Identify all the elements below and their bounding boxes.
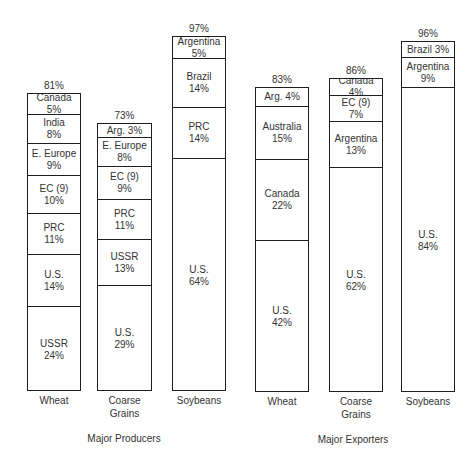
category-label: CoarseGrains [319, 395, 393, 421]
bar-total-label: 81% [27, 80, 81, 91]
segment-label: Arg. 4% [264, 91, 300, 103]
bar-segment: Canada 5% [28, 94, 80, 114]
segment-value: 62% [346, 281, 366, 293]
segment-value: 42% [272, 317, 292, 329]
bar-segment: PRC11% [98, 199, 151, 239]
segment-name: Argentina [407, 61, 450, 73]
segment-name: EC (9) [40, 183, 69, 195]
segment-name: U.S. [44, 269, 63, 281]
bar-major-producers-soybeans: U.S.64%PRC14%Brazil14%Argentina5% [172, 36, 226, 391]
segment-value: 11% [115, 220, 134, 232]
bar-major-exporters-coarse-grains: U.S.62%Argentina13%EC (9)7%Canada 4% [329, 78, 383, 392]
bar-total-label: 97% [172, 23, 226, 34]
bar-total-label: 83% [255, 74, 309, 85]
bar-segment: Arg. 3% [98, 124, 151, 137]
bar-segment: U.S.42% [256, 240, 308, 393]
bar-segment: Arg. 4% [256, 88, 308, 106]
category-label: Soybeans [162, 394, 236, 407]
segment-value: 14% [44, 281, 64, 293]
group-label: Major Exporters [283, 434, 423, 445]
bar-segment: U.S.29% [98, 285, 151, 392]
segment-value: 7% [349, 109, 363, 121]
segment-value: 14% [189, 133, 209, 145]
segment-name: E. Europe [102, 140, 146, 152]
bar-segment: EC (9)10% [28, 175, 80, 213]
bar-segment: India8% [28, 114, 80, 143]
bar-major-exporters-soybeans: U.S.84%Argentina9%Brazil 3% [401, 41, 455, 392]
bar-segment: USSR24% [28, 306, 80, 392]
bar-major-exporters-wheat: U.S.42%Canada22%Australia15%Arg. 4% [255, 87, 309, 392]
segment-label: Canada 5% [28, 94, 80, 114]
bar-segment: Argentina13% [330, 121, 382, 167]
segment-label: Canada 4% [330, 79, 382, 95]
segment-name: Argentina [335, 133, 378, 145]
segment-name: EC (9) [110, 171, 139, 183]
bar-segment: U.S.14% [28, 254, 80, 306]
segment-name: USSR [111, 251, 139, 263]
segment-name: Australia [263, 121, 302, 133]
segment-value: 9% [117, 183, 131, 195]
bar-segment: U.S.84% [402, 87, 454, 393]
segment-value: 9% [421, 73, 435, 85]
segment-name: Brazil [186, 71, 211, 83]
segment-name: U.S. [346, 269, 365, 281]
segment-name: U.S. [189, 264, 208, 276]
bar-segment: PRC14% [173, 107, 225, 158]
bar-segment: USSR13% [98, 239, 151, 285]
category-label: CoarseGrains [87, 394, 162, 420]
bar-segment: U.S.64% [173, 158, 225, 392]
segment-name: Canada [264, 188, 299, 200]
segment-value: 22% [272, 200, 292, 212]
segment-name: U.S. [272, 305, 291, 317]
segment-value: 14% [189, 83, 209, 95]
bar-total-label: 96% [401, 28, 455, 39]
segment-value: 10% [44, 195, 64, 207]
bar-segment: E. Europe9% [28, 143, 80, 175]
segment-value: 64% [189, 276, 209, 288]
bar-segment: EC (9)7% [330, 95, 382, 121]
segment-name: EC (9) [342, 97, 371, 109]
bar-major-producers-wheat: USSR24%U.S.14%PRC11%EC (9)10%E. Europe9%… [27, 93, 81, 391]
bar-segment: EC (9)9% [98, 166, 151, 199]
segment-value: 13% [346, 145, 366, 157]
segment-name: E. Europe [32, 148, 76, 160]
category-label: Wheat [17, 394, 91, 407]
segment-label: Brazil 3% [407, 44, 449, 56]
segment-value: 8% [117, 152, 131, 164]
segment-value: 29% [114, 339, 134, 351]
segment-name: Argentina [178, 37, 221, 48]
segment-name: U.S. [418, 229, 437, 241]
bar-segment: Argentina5% [173, 37, 225, 58]
bar-segment: Argentina9% [402, 57, 454, 87]
category-label: Soybeans [391, 395, 465, 408]
bar-segment: Australia15% [256, 106, 308, 159]
bar-segment: Canada22% [256, 159, 308, 240]
segment-value: 15% [272, 133, 292, 145]
bar-segment: PRC11% [28, 213, 80, 254]
segment-name: PRC [188, 121, 209, 133]
group-label: Major Producers [54, 433, 194, 444]
bar-segment: Canada 4% [330, 79, 382, 95]
bar-segment: Brazil 3% [402, 42, 454, 57]
segment-value: 11% [44, 234, 63, 246]
bar-total-label: 86% [329, 65, 383, 76]
segment-value: 84% [418, 241, 438, 253]
segment-value: 8% [47, 129, 61, 141]
segment-value: 13% [114, 263, 134, 275]
segment-value: 24% [44, 350, 64, 362]
bar-major-producers-coarse-grains: U.S.29%USSR13%PRC11%EC (9)9%E. Europe8%A… [97, 123, 152, 391]
segment-label: Arg. 3% [107, 125, 143, 137]
segment-name: PRC [114, 208, 135, 220]
segment-value: 5% [192, 48, 206, 59]
bar-segment: E. Europe8% [98, 137, 151, 166]
bar-segment: Brazil14% [173, 58, 225, 107]
segment-name: PRC [43, 222, 64, 234]
segment-name: USSR [40, 338, 68, 350]
bar-segment: U.S.62% [330, 167, 382, 393]
segment-name: India [43, 117, 65, 129]
category-label: Wheat [245, 395, 319, 408]
segment-name: U.S. [115, 327, 134, 339]
bar-total-label: 73% [97, 110, 152, 121]
segment-value: 9% [47, 160, 61, 172]
